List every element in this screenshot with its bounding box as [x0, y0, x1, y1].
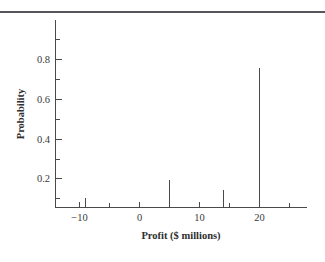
x-tick-label-2: 10 [194, 212, 205, 223]
probability-spike-chart: 0.2 0.4 0.6 0.8 −10 0 10 20 [0, 14, 325, 244]
x-tick-label-1: 0 [137, 212, 142, 223]
y-tick-label-1: 0.4 [37, 134, 51, 145]
y-tick-label-3: 0.8 [37, 54, 50, 65]
x-tick-label-0: −10 [71, 212, 87, 223]
y-tick-label-0: 0.2 [37, 173, 50, 184]
y-axis-title: Probability [15, 88, 26, 139]
x-tick-label-3: 20 [254, 212, 265, 223]
y-tick-label-2: 0.6 [37, 94, 50, 105]
top-horizontal-rule [0, 11, 325, 13]
figure-container: 0.2 0.4 0.6 0.8 −10 0 10 20 [0, 0, 325, 262]
x-axis-title: Profit ($ millions) [141, 230, 221, 242]
data-spikes [80, 68, 260, 208]
y-axis-minor-ticks [56, 40, 61, 199]
chart-svg: 0.2 0.4 0.6 0.8 −10 0 10 20 [0, 14, 325, 244]
